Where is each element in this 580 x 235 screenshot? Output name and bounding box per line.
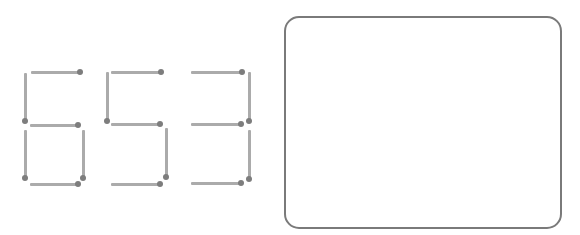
matchstick-head-icon <box>75 122 81 128</box>
matchstick-body <box>165 128 168 177</box>
matchstick-head-icon <box>75 181 81 187</box>
matchstick-head-icon <box>246 176 252 182</box>
matchstick-body <box>248 130 251 179</box>
matchstick-head-icon <box>22 118 28 124</box>
matchstick-head-icon <box>238 121 244 127</box>
matchstick-body <box>30 124 78 127</box>
matchstick-body <box>248 72 251 121</box>
matchstick-body <box>24 130 27 178</box>
matchstick-body <box>191 123 241 126</box>
matchstick-body <box>82 130 85 178</box>
matchstick-head-icon <box>77 69 83 75</box>
matchstick-head-icon <box>157 181 163 187</box>
matchstick-head-icon <box>158 69 164 75</box>
matchstick-body <box>111 71 161 74</box>
matchstick-body <box>111 123 160 126</box>
matchstick-head-icon <box>22 175 28 181</box>
matchstick-body <box>24 73 27 121</box>
matchstick-body <box>31 71 80 74</box>
matchstick-body <box>106 72 109 121</box>
matchstick-body <box>191 182 241 185</box>
matchstick-body <box>111 183 160 186</box>
matchstick-head-icon <box>246 118 252 124</box>
matchstick-head-icon <box>238 180 244 186</box>
matchstick-head-icon <box>157 121 163 127</box>
matchstick-body <box>30 183 78 186</box>
matchstick-head-icon <box>80 175 86 181</box>
matchstick-head-icon <box>239 69 245 75</box>
matchstick-head-icon <box>163 174 169 180</box>
matchstick-head-icon <box>104 118 110 124</box>
matchstick-puzzle <box>0 0 270 235</box>
answer-box <box>284 16 562 229</box>
matchstick-body <box>191 71 242 74</box>
